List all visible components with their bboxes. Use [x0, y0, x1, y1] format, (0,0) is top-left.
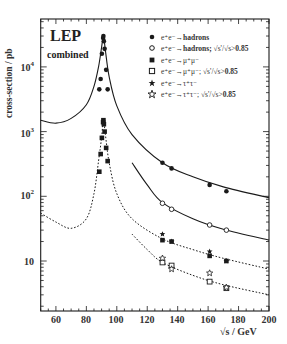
- filled-square-icon: [147, 55, 157, 65]
- filled-square-marker: [104, 146, 109, 151]
- chart-title: LEP: [50, 27, 81, 45]
- x-tick-160: 160: [193, 314, 223, 325]
- filled-circle-marker: [100, 51, 105, 56]
- filled-star-icon: [147, 78, 157, 88]
- filled-star-marker: [207, 249, 213, 254]
- filled-circle-marker: [105, 87, 110, 92]
- x-axis-label: √s / GeV: [220, 326, 257, 337]
- y-tick-10: 10: [6, 254, 34, 267]
- y-tick-1e3: 103: [6, 126, 34, 139]
- curve-3: [132, 234, 269, 295]
- x-tick-140: 140: [162, 314, 192, 325]
- filled-circle-marker: [104, 68, 109, 73]
- filled-square-marker: [100, 136, 105, 141]
- chart-subtitle: combined: [47, 49, 89, 60]
- filled-circle-marker: [102, 39, 107, 44]
- filled-circle-marker: [160, 160, 165, 165]
- filled-circle-marker: [102, 47, 107, 52]
- open-square-icon: [147, 66, 157, 76]
- x-tick-200: 200: [254, 314, 284, 325]
- filled-square-marker: [102, 122, 107, 127]
- curve-1: [132, 163, 269, 240]
- open-circle-icon: [147, 43, 157, 53]
- filled-square-marker: [160, 238, 165, 243]
- x-tick-180: 180: [223, 314, 253, 325]
- filled-circle-marker: [207, 183, 212, 188]
- filled-square-marker: [102, 129, 107, 134]
- open-star-icon: [147, 89, 157, 99]
- x-tick-100: 100: [101, 314, 131, 325]
- y-axis-label: cross-section / pb: [4, 18, 18, 128]
- filled-circle-marker: [169, 166, 174, 171]
- filled-square-marker: [101, 118, 106, 123]
- filled-square-marker: [105, 159, 110, 164]
- x-tick-120: 120: [132, 314, 162, 325]
- open-circle-marker: [224, 228, 229, 233]
- filled-circle-marker: [98, 77, 103, 82]
- open-square-marker: [207, 279, 212, 284]
- x-tick-80: 80: [71, 314, 101, 325]
- open-star-marker: [207, 270, 213, 276]
- filled-square-marker: [98, 152, 103, 157]
- open-circle-marker: [160, 201, 165, 206]
- filled-star-marker: [160, 231, 166, 236]
- filled-circle-marker: [97, 87, 102, 92]
- y-tick-1e2: 102: [6, 188, 34, 201]
- y-axis-label-text: cross-section / pb: [4, 49, 14, 119]
- filled-circle-marker: [224, 189, 229, 194]
- y-tick-1e4: 104: [6, 60, 34, 73]
- filled-circle-icon: [147, 32, 157, 42]
- open-circle-marker: [207, 223, 212, 228]
- x-tick-60: 60: [41, 314, 71, 325]
- filled-square-marker: [97, 169, 102, 174]
- open-circle-marker: [169, 207, 174, 212]
- filled-square-marker: [207, 254, 212, 259]
- filled-circle-marker: [101, 34, 106, 39]
